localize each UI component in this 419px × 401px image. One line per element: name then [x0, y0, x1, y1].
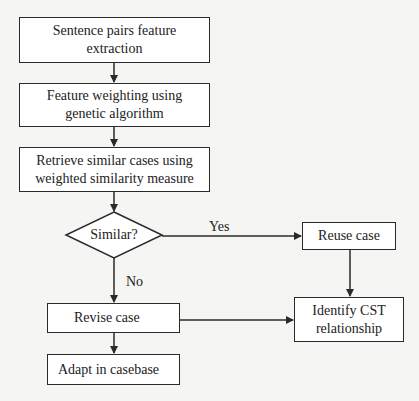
- node-feature-weighting: Feature weighting using genetic algorith…: [19, 83, 210, 127]
- node-retrieve-cases: Retrieve similar cases using weighted si…: [19, 147, 210, 192]
- node-feature-weighting-line1: Feature weighting using: [47, 87, 182, 105]
- node-revise-case: Revise case: [47, 303, 180, 333]
- node-feature-weighting-line2: genetic algorithm: [47, 105, 182, 123]
- node-adapt-casebase-label: Adapt in casebase: [58, 361, 159, 379]
- edge-label-no: No: [126, 274, 143, 290]
- node-retrieve-cases-line2: weighted similarity measure: [35, 170, 194, 188]
- node-identify-cst-line2: relationship: [312, 320, 386, 338]
- node-feature-extraction-line2: extraction: [53, 40, 177, 58]
- node-identify-cst: Identify CST relationship: [294, 297, 404, 342]
- node-retrieve-cases-line1: Retrieve similar cases using: [35, 152, 194, 170]
- node-revise-case-label: Revise case: [74, 309, 140, 327]
- flowchart-canvas: Sentence pairs feature extraction Featur…: [0, 0, 419, 401]
- node-feature-extraction-line1: Sentence pairs feature: [53, 22, 177, 40]
- node-reuse-case: Reuse case: [302, 222, 396, 250]
- decision-similar-label: Similar?: [74, 227, 154, 243]
- node-reuse-case-label: Reuse case: [318, 227, 380, 245]
- node-adapt-casebase: Adapt in casebase: [47, 354, 180, 385]
- node-feature-extraction: Sentence pairs feature extraction: [19, 17, 210, 63]
- edge-label-yes: Yes: [209, 219, 229, 235]
- node-identify-cst-line1: Identify CST: [312, 302, 386, 320]
